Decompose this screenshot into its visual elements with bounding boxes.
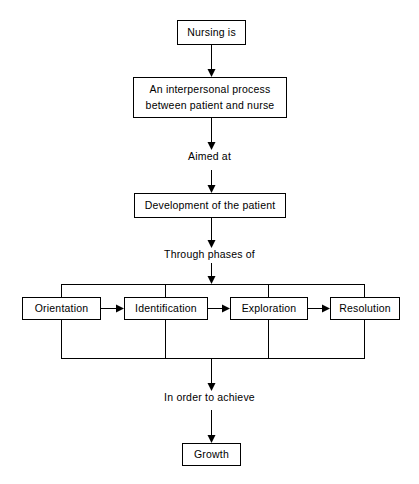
- connector-lines: [0, 0, 419, 484]
- arrowhead-group-to-achieve: [208, 383, 216, 391]
- caption-through-phases-of: Through phases of: [0, 248, 419, 260]
- arrowhead-nursing-to-interpersonal: [208, 69, 216, 77]
- node-nursing-is: Nursing is: [177, 20, 246, 45]
- arrowhead-orientation-to-identification: [116, 305, 124, 313]
- node-development-of-the-patient: Development of the patient: [134, 193, 286, 218]
- arrowhead-phases-to-group: [208, 276, 216, 284]
- arrowhead-aimedat-to-development: [208, 185, 216, 193]
- node-phase-resolution: Resolution: [330, 297, 400, 320]
- node-interpersonal-process: An interpersonal process between patient…: [133, 77, 287, 118]
- arrowhead-achieve-to-growth: [208, 435, 216, 443]
- arrowhead-exploration-to-resolution: [322, 305, 330, 313]
- node-growth: Growth: [182, 443, 241, 466]
- node-phase-identification: Identification: [124, 297, 208, 320]
- node-phase-orientation: Orientation: [22, 297, 101, 320]
- caption-aimed-at: Aimed at: [0, 150, 419, 162]
- arrowhead-identification-to-exploration: [222, 305, 230, 313]
- caption-in-order-to-achieve: In order to achieve: [0, 391, 419, 403]
- nursing-process-diagram: Nursing is An interpersonal process betw…: [0, 0, 419, 484]
- arrowhead-development-to-phases: [208, 240, 216, 248]
- arrowhead-interpersonal-to-aimedat: [208, 142, 216, 150]
- node-phase-exploration: Exploration: [230, 297, 308, 320]
